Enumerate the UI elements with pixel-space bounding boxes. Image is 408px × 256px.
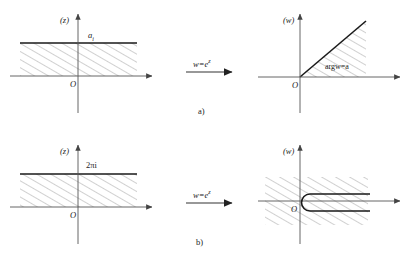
strip-height-subscript-a: i	[92, 36, 94, 42]
panel-b-left-zplane	[10, 145, 152, 244]
mapping-formula-b-exponent: z	[208, 189, 210, 195]
complex-mapping-figure	[0, 0, 408, 256]
caption-panel-b: b)	[196, 238, 203, 247]
strip-region-a	[20, 43, 137, 76]
mapping-formula-b-base: =e	[199, 190, 209, 200]
plane-label-b-right: (w)	[283, 147, 294, 156]
plane-label-b-left: (z)	[60, 147, 69, 156]
strip-height-label-a: ai	[88, 31, 94, 42]
mapping-formula-a-exponent: z	[208, 58, 210, 64]
arg-region-label-a: argw=a	[325, 63, 349, 71]
panel-b-right-wplane	[258, 145, 400, 244]
mapping-formula-a: w=ez	[193, 58, 211, 68]
strip-region-b	[20, 174, 137, 207]
panel-a-left-zplane	[10, 14, 152, 113]
origin-label-a-left: O	[70, 80, 76, 89]
caption-panel-a: a)	[198, 107, 205, 116]
plane-label-a-right: (w)	[283, 16, 294, 25]
origin-label-b-left: O	[70, 211, 76, 220]
origin-label-b-right: O	[291, 205, 297, 214]
plane-label-a-left: (z)	[60, 16, 69, 25]
origin-label-a-right: O	[292, 81, 298, 90]
mapping-formula-b: w=ez	[193, 189, 211, 199]
strip-height-label-b: 2πi	[86, 161, 97, 170]
mapping-formula-a-base: =e	[199, 59, 209, 69]
